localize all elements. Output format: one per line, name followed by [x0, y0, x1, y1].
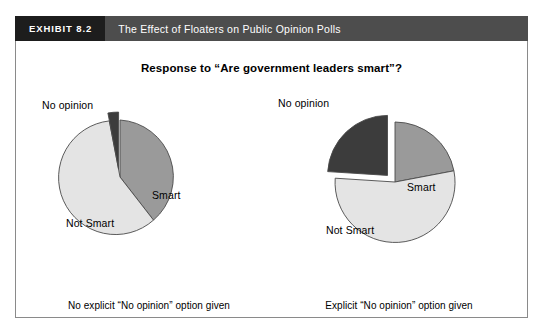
exhibit-number-label: EXHIBIT 8.2	[29, 23, 92, 34]
pie-chart-right	[274, 85, 524, 285]
panel-caption-left: No explicit “No opinion” option given	[24, 300, 274, 311]
exhibit-page: EXHIBIT 8.2 The Effect of Floaters on Pu…	[0, 0, 547, 336]
slice-label-smart-left: Smart	[152, 189, 181, 201]
panel-caption-right: Explicit “No opinion” option given	[274, 300, 524, 311]
slice-label-no-opinion-right: No opinion	[278, 97, 329, 109]
exhibit-number-block: EXHIBIT 8.2	[15, 16, 105, 41]
chart-body: Response to “Are government leaders smar…	[16, 41, 527, 317]
exhibit-title: The Effect of Floaters on Public Opinion…	[105, 23, 341, 35]
slice-label-no-opinion-left: No opinion	[42, 99, 93, 111]
slice-label-not-smart-left: Not Smart	[66, 217, 114, 229]
chart-title: Response to “Are government leaders smar…	[16, 62, 527, 74]
slice-label-smart-right: Smart	[407, 181, 436, 193]
pie-panel-left: No opinion Smart Not Smart No explicit “…	[24, 85, 274, 313]
pie-panel-right: No opinion Smart Not Smart Explicit “No …	[274, 85, 524, 313]
pie-slice-no-opinion-right-group	[328, 115, 388, 175]
pie-slice-no-opinion-right	[328, 115, 388, 175]
slice-label-not-smart-right: Not Smart	[326, 224, 374, 236]
exhibit-header-bar: EXHIBIT 8.2 The Effect of Floaters on Pu…	[15, 16, 528, 41]
pie-chart-left	[24, 85, 274, 285]
